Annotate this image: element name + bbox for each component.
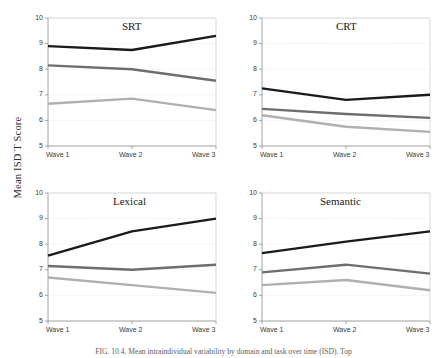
series-line <box>262 280 430 290</box>
series-line <box>262 265 430 274</box>
x-tick-label: Wave 1 <box>260 326 283 333</box>
x-tick-label: Wave 2 <box>119 151 142 158</box>
chart-panel-lexical: Lexical5678910Wave 1Wave 2Wave 3 <box>48 193 216 321</box>
y-tick-label: 9 <box>27 39 43 46</box>
panel-title: SRT <box>122 20 142 32</box>
series-line <box>48 265 216 270</box>
y-tick-label: 6 <box>27 116 43 123</box>
x-tick-label: Wave 3 <box>406 151 429 158</box>
y-tick-label: 10 <box>27 14 43 21</box>
y-tick-label: 5 <box>241 317 257 324</box>
plot-area <box>262 193 430 321</box>
x-tick-label: Wave 1 <box>46 326 69 333</box>
y-tick-label: 10 <box>241 14 257 21</box>
series-line <box>48 65 216 80</box>
series-line <box>262 88 430 100</box>
plot-area <box>48 18 216 146</box>
x-tick-label: Wave 3 <box>406 326 429 333</box>
y-tick-label: 9 <box>241 214 257 221</box>
y-tick-label: 10 <box>27 189 43 196</box>
y-tick-label: 6 <box>27 291 43 298</box>
y-tick-label: 7 <box>27 90 43 97</box>
series-line <box>262 231 430 253</box>
y-tick-label: 6 <box>241 291 257 298</box>
figure-caption: FIG. 10.4. Mean intraindividual variabil… <box>0 345 447 358</box>
y-axis-label: Mean ISD T Score <box>12 93 23 223</box>
y-tick-label: 5 <box>241 142 257 149</box>
x-tick-label: Wave 2 <box>119 326 142 333</box>
chart-panel-semantic: Semantic5678910Wave 1Wave 2Wave 3 <box>262 193 430 321</box>
panel-title: CRT <box>336 20 357 32</box>
y-tick-label: 7 <box>27 265 43 272</box>
x-tick-label: Wave 2 <box>333 151 356 158</box>
series-line <box>48 36 216 50</box>
series-line <box>48 277 216 292</box>
chart-panel-srt: SRT5678910Wave 1Wave 2Wave 3 <box>48 18 216 146</box>
series-line <box>48 219 216 256</box>
chart-panel-crt: CRT5678910Wave 1Wave 2Wave 3 <box>262 18 430 146</box>
x-tick-label: Wave 2 <box>333 326 356 333</box>
x-tick-label: Wave 3 <box>192 151 215 158</box>
plot-area <box>262 18 430 146</box>
y-tick-label: 7 <box>241 265 257 272</box>
y-tick-label: 8 <box>27 240 43 247</box>
panel-title: Semantic <box>320 195 361 207</box>
y-tick-label: 9 <box>27 214 43 221</box>
y-tick-label: 6 <box>241 116 257 123</box>
y-tick-label: 10 <box>241 189 257 196</box>
series-line <box>48 99 216 111</box>
x-tick-label: Wave 3 <box>192 326 215 333</box>
y-tick-label: 8 <box>27 65 43 72</box>
plot-area <box>48 193 216 321</box>
x-tick-label: Wave 1 <box>46 151 69 158</box>
y-tick-label: 8 <box>241 240 257 247</box>
x-tick-label: Wave 1 <box>260 151 283 158</box>
y-tick-label: 8 <box>241 65 257 72</box>
y-tick-label: 7 <box>241 90 257 97</box>
y-tick-label: 9 <box>241 39 257 46</box>
series-line <box>262 109 430 118</box>
y-tick-label: 5 <box>27 317 43 324</box>
figure-container: Mean ISD T Score SRT5678910Wave 1Wave 2W… <box>0 0 447 358</box>
y-tick-label: 5 <box>27 142 43 149</box>
panel-title: Lexical <box>113 195 146 207</box>
